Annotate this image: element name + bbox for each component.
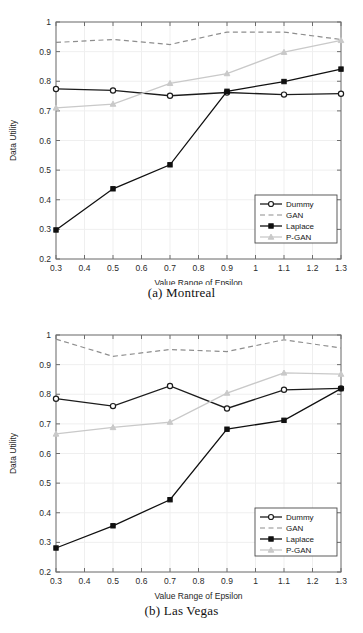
svg-text:0.9: 0.9: [221, 263, 233, 273]
legend-label-gan: GAN: [286, 524, 304, 533]
legend-label-dummy: Dummy: [286, 513, 314, 522]
svg-text:0.3: 0.3: [39, 537, 51, 547]
svg-text:0.4: 0.4: [79, 576, 91, 586]
legend-label-gan: GAN: [286, 211, 304, 220]
svg-text:1: 1: [46, 330, 51, 340]
legend-label-laplace: Laplace: [286, 535, 315, 544]
svg-text:0.8: 0.8: [39, 76, 51, 86]
figure-container: 0.20.30.40.50.60.70.80.910.30.40.50.60.7…: [0, 0, 363, 633]
svg-text:0.7: 0.7: [164, 576, 176, 586]
svg-text:1: 1: [253, 576, 258, 586]
svg-text:0.6: 0.6: [39, 136, 51, 146]
svg-text:1.3: 1.3: [335, 576, 347, 586]
svg-text:0.3: 0.3: [39, 224, 51, 234]
svg-text:Data Utility: Data Utility: [8, 432, 18, 474]
chart-panel-montreal: 0.20.30.40.50.60.70.80.910.30.40.50.60.7…: [0, 0, 363, 313]
chart-panel-lasvegas: 0.20.30.40.50.60.70.80.910.30.40.50.60.7…: [0, 313, 363, 633]
legend-label-p-gan: P-GAN: [286, 233, 312, 242]
svg-text:0.7: 0.7: [39, 419, 51, 429]
svg-text:0.4: 0.4: [39, 508, 51, 518]
svg-text:Value Range of Epsilon: Value Range of Epsilon: [154, 591, 242, 601]
svg-text:0.3: 0.3: [50, 263, 62, 273]
svg-text:0.5: 0.5: [107, 263, 119, 273]
svg-text:0.6: 0.6: [39, 449, 51, 459]
svg-text:0.3: 0.3: [50, 576, 62, 586]
panel-caption-lasvegas: (b) Las Vegas: [0, 603, 363, 619]
svg-text:Data Utility: Data Utility: [8, 119, 18, 161]
svg-text:0.7: 0.7: [39, 106, 51, 116]
svg-text:0.8: 0.8: [39, 389, 51, 399]
svg-text:1.1: 1.1: [278, 263, 290, 273]
svg-text:0.6: 0.6: [136, 576, 148, 586]
svg-text:0.5: 0.5: [39, 478, 51, 488]
chart-svg-montreal: 0.20.30.40.50.60.70.80.910.30.40.50.60.7…: [0, 0, 363, 285]
svg-text:1.3: 1.3: [335, 263, 347, 273]
svg-text:0.9: 0.9: [39, 47, 51, 57]
svg-text:1.2: 1.2: [307, 576, 319, 586]
svg-text:Value Range of Epsilon: Value Range of Epsilon: [154, 278, 242, 285]
svg-text:0.6: 0.6: [136, 263, 148, 273]
svg-text:1: 1: [253, 263, 258, 273]
svg-text:0.5: 0.5: [107, 576, 119, 586]
svg-text:0.9: 0.9: [39, 360, 51, 370]
svg-text:1: 1: [46, 17, 51, 27]
svg-text:0.4: 0.4: [79, 263, 91, 273]
legend-label-dummy: Dummy: [286, 200, 314, 209]
chart-svg-lasvegas: 0.20.30.40.50.60.70.80.910.30.40.50.60.7…: [0, 313, 363, 603]
svg-text:0.8: 0.8: [193, 263, 205, 273]
svg-text:0.7: 0.7: [164, 263, 176, 273]
svg-text:0.4: 0.4: [39, 195, 51, 205]
svg-text:0.8: 0.8: [193, 576, 205, 586]
svg-text:1.2: 1.2: [307, 263, 319, 273]
panel-caption-montreal: (a) Montreal: [0, 285, 363, 301]
legend-label-laplace: Laplace: [286, 222, 315, 231]
svg-text:0.9: 0.9: [221, 576, 233, 586]
svg-text:0.5: 0.5: [39, 165, 51, 175]
legend-label-p-gan: P-GAN: [286, 546, 312, 555]
svg-text:1.1: 1.1: [278, 576, 290, 586]
